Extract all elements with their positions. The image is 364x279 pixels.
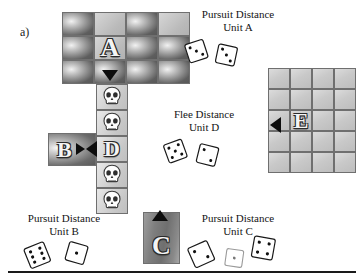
- figure-panel-a: a) A: [0, 0, 364, 279]
- grid-cell[interactable]: [334, 68, 356, 89]
- grid-cell[interactable]: [62, 12, 94, 36]
- grid-cell[interactable]: [94, 12, 126, 36]
- corridor-cell-skull[interactable]: [96, 84, 128, 110]
- skull-icon: [97, 189, 127, 213]
- grid-cell[interactable]: [62, 60, 94, 84]
- grid-cell-unit-a[interactable]: A: [94, 36, 126, 60]
- skull-icon: [97, 111, 127, 135]
- skull-icon: [97, 85, 127, 109]
- unit-a-label: A: [95, 37, 125, 59]
- die-icon: [249, 234, 277, 266]
- die-icon: [222, 247, 245, 274]
- grid-cell[interactable]: [268, 152, 290, 173]
- caption-line-2: Unit B: [12, 225, 116, 238]
- die-icon: [193, 142, 221, 173]
- corridor-path: D: [96, 84, 128, 214]
- grid-cell-unit-e[interactable]: E: [290, 110, 312, 131]
- grid-cell[interactable]: [334, 131, 356, 152]
- grid-cell[interactable]: [290, 68, 312, 89]
- die-icon: [213, 42, 240, 72]
- caption-line-1: Pursuit Distance: [12, 212, 116, 225]
- caption-flee-unit-d: Flee Distance Unit D: [152, 108, 256, 134]
- caption-line-1: Pursuit Distance: [186, 212, 290, 225]
- corridor-cell-skull[interactable]: [96, 162, 128, 188]
- caption-line-2: Unit A: [186, 21, 290, 34]
- corridor-cell-skull[interactable]: [96, 110, 128, 136]
- grid-cell[interactable]: [126, 36, 158, 60]
- arrow-left-icon: [86, 141, 97, 157]
- caption-pursuit-unit-b: Pursuit Distance Unit B: [12, 212, 116, 238]
- unit-e-label: E: [291, 111, 311, 130]
- grid-cell[interactable]: [126, 60, 158, 84]
- panel-label: a): [20, 25, 29, 40]
- caption-pursuit-unit-a: Pursuit Distance Unit A: [186, 8, 290, 34]
- unit-e-grid: E: [268, 68, 356, 173]
- grid-cell[interactable]: [312, 131, 334, 152]
- grid-cell[interactable]: [290, 89, 312, 110]
- grid-cell[interactable]: [312, 68, 334, 89]
- arrow-down-icon: [102, 70, 118, 81]
- caption-line-1: Pursuit Distance: [186, 8, 290, 21]
- caption-line-2: Unit D: [152, 121, 256, 134]
- arrow-right-icon: [76, 143, 85, 155]
- unit-a-grid: A: [62, 12, 190, 84]
- grid-cell[interactable]: [290, 131, 312, 152]
- grid-cell[interactable]: [268, 68, 290, 89]
- caption-pursuit-unit-c: Pursuit Distance Unit C: [186, 212, 290, 238]
- corridor-cell-skull[interactable]: [96, 188, 128, 214]
- grid-cell[interactable]: [126, 12, 158, 36]
- bottom-rule: [8, 271, 356, 273]
- die-icon: [185, 238, 218, 273]
- grid-cell[interactable]: [334, 152, 356, 173]
- grid-cell[interactable]: [268, 131, 290, 152]
- arrow-up-icon: [152, 210, 168, 221]
- grid-cell[interactable]: [62, 36, 94, 60]
- grid-cell[interactable]: [158, 60, 190, 84]
- arrow-left-icon: [270, 117, 281, 133]
- die-icon: [161, 137, 191, 169]
- grid-cell[interactable]: [312, 89, 334, 110]
- die-icon: [62, 239, 90, 270]
- skull-icon: [97, 163, 127, 187]
- grid-cell[interactable]: [312, 152, 334, 173]
- grid-cell[interactable]: [290, 152, 312, 173]
- grid-cell[interactable]: [312, 110, 334, 131]
- grid-cell[interactable]: [334, 89, 356, 110]
- grid-cell[interactable]: [334, 110, 356, 131]
- caption-line-2: Unit C: [186, 225, 290, 238]
- grid-cell[interactable]: [268, 89, 290, 110]
- unit-d-label: D: [97, 137, 127, 161]
- corridor-cell-unit-d[interactable]: D: [96, 136, 128, 162]
- caption-line-1: Flee Distance: [152, 108, 256, 121]
- die-icon: [22, 240, 55, 275]
